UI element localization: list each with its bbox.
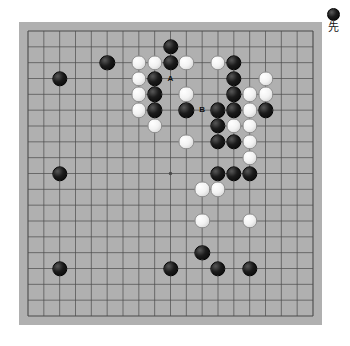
black-stone xyxy=(226,87,241,102)
black-stone xyxy=(242,261,257,276)
black-stone xyxy=(210,118,225,133)
black-stone xyxy=(210,166,225,181)
white-stone xyxy=(242,213,257,228)
black-stone xyxy=(242,166,257,181)
turn-legend: 先 xyxy=(320,8,346,34)
white-stone xyxy=(147,55,162,70)
black-stone xyxy=(52,71,67,86)
go-problem-diagram: AB 先 xyxy=(0,0,350,346)
black-stone xyxy=(194,245,209,260)
white-stone xyxy=(242,150,257,165)
black-stone xyxy=(226,71,241,86)
black-stone xyxy=(258,102,273,117)
white-stone xyxy=(242,118,257,133)
white-stone xyxy=(210,182,225,197)
black-stone xyxy=(163,55,178,70)
black-stone xyxy=(52,166,67,181)
black-stone xyxy=(52,261,67,276)
black-stone xyxy=(147,71,162,86)
white-stone xyxy=(242,134,257,149)
white-stone xyxy=(179,87,194,102)
white-stone xyxy=(179,55,194,70)
white-stone xyxy=(194,182,209,197)
stone-layer: AB xyxy=(19,22,322,325)
black-stone xyxy=(226,55,241,70)
black-stone-icon xyxy=(327,8,340,21)
turn-legend-label: 先 xyxy=(320,22,346,34)
white-stone xyxy=(131,87,146,102)
black-stone xyxy=(147,102,162,117)
white-stone xyxy=(179,134,194,149)
white-stone xyxy=(210,55,225,70)
black-stone xyxy=(147,87,162,102)
black-stone xyxy=(210,134,225,149)
black-stone xyxy=(99,55,114,70)
white-stone xyxy=(226,118,241,133)
white-stone xyxy=(258,87,273,102)
point-label-b: B xyxy=(199,106,205,114)
white-stone xyxy=(131,102,146,117)
white-stone xyxy=(242,87,257,102)
black-stone xyxy=(210,102,225,117)
black-stone xyxy=(226,102,241,117)
black-stone xyxy=(179,102,194,117)
black-stone xyxy=(226,166,241,181)
go-board-surface[interactable]: AB xyxy=(19,22,322,325)
black-stone xyxy=(210,261,225,276)
white-stone xyxy=(131,55,146,70)
white-stone xyxy=(242,102,257,117)
point-label-a: A xyxy=(168,75,174,83)
go-board-frame: AB xyxy=(19,22,322,325)
white-stone xyxy=(131,71,146,86)
white-stone xyxy=(147,118,162,133)
white-stone xyxy=(194,213,209,228)
black-stone xyxy=(163,261,178,276)
white-stone xyxy=(258,71,273,86)
black-stone xyxy=(226,134,241,149)
black-stone xyxy=(163,39,178,54)
